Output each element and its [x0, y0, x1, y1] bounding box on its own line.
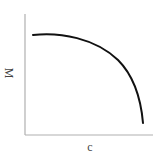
y-axis-label: M	[2, 65, 16, 81]
chart-plot	[0, 0, 155, 158]
data-curve	[33, 34, 143, 123]
x-axis-label: c	[84, 140, 96, 154]
